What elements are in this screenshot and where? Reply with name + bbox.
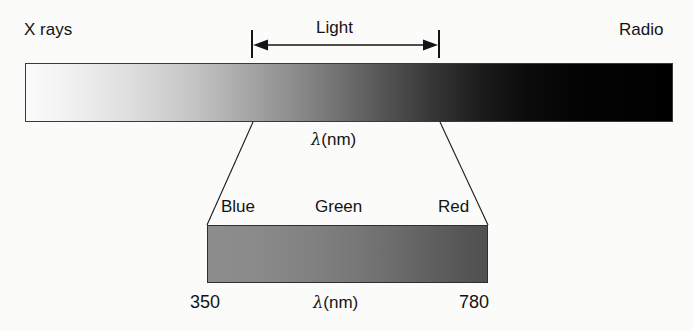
visible-gradient-bar: [207, 225, 488, 283]
wavelength-max-label: 780: [459, 293, 489, 311]
green-label: Green: [315, 198, 362, 215]
light-range-arrow: [245, 26, 447, 62]
x-rays-label: X rays: [24, 21, 72, 38]
red-label: Red: [438, 198, 469, 215]
spectrum-gradient-bar: [25, 63, 673, 122]
blue-label: Blue: [221, 198, 255, 215]
wavelength-axis-label-bottom: λ(nm): [313, 294, 358, 311]
radio-label: Radio: [619, 21, 663, 38]
spectrum-figure: X rays Radio Light λ(nm) Blue Green Red …: [0, 0, 693, 331]
wavelength-axis-label-top: λ(nm): [311, 131, 356, 148]
wavelength-min-label: 350: [190, 293, 220, 311]
